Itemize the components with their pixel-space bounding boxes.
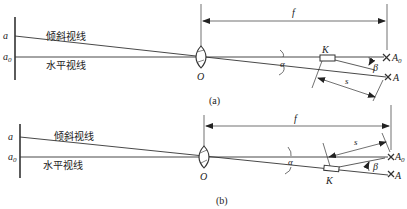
label-f-a: f [292,7,296,18]
label-a-point-a: A [392,72,400,83]
label-a0: a0 [3,51,12,64]
label-a-point-b: A [394,170,402,181]
label-alpha-a: α [280,59,285,69]
label-horizontal-line-b: 水平视线 [43,159,83,171]
label-a0: a0 [8,151,17,164]
label-a: a [8,131,13,142]
a0-cross-icon-b [388,154,394,160]
label-k-b: K [325,175,334,186]
label-inclined-line-b: 倾斜视线 [54,130,94,142]
caption-a: (a) [209,95,220,107]
k-box-a [320,55,335,61]
caption-b: (b) [216,195,228,207]
label-inclined-line-a: 倾斜视线 [46,30,86,42]
label-f-b: f [294,113,298,124]
label-lens-o-a: O [197,71,204,82]
label-lens-o-b: O [200,171,207,182]
label-k-a: K [321,44,330,55]
lens-icon-a [196,46,206,68]
label-beta-b: β [372,161,378,172]
label-a0-point-b: A0 [394,151,405,164]
label-a: a [3,30,8,41]
k-box-b [324,165,339,172]
panel-a [15,4,391,101]
a-cross-icon-b [388,171,394,177]
label-s-b: s [354,137,358,147]
a0-cross-icon-a [383,54,390,61]
lens-icon-b [199,146,209,168]
label-s-a: s [345,76,349,86]
label-horizontal-line-a: 水平视线 [46,59,86,71]
label-a0-point-a: A0 [391,52,402,65]
label-alpha-b: α [288,157,293,167]
diagram-canvas: a a0 倾斜视线 水平视线 O f α K β A0 A s (a) [0,0,407,209]
label-beta-a: β [372,62,378,73]
